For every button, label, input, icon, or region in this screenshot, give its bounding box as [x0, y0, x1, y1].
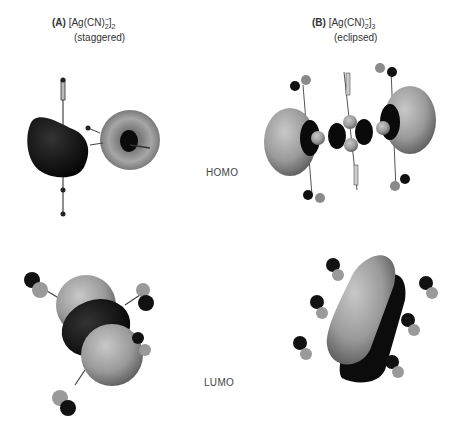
panel-a-homo [27, 78, 160, 217]
panel-a-lumo [24, 272, 154, 416]
panel-b-lumo [293, 255, 438, 382]
orbital-figure [0, 0, 458, 440]
panel-b-homo [264, 63, 436, 203]
